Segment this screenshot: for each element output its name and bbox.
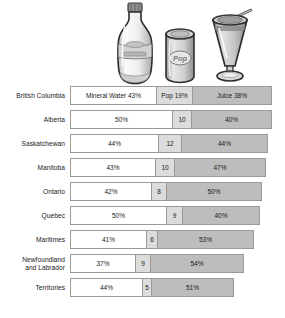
row-label-line1: Manitoba [37,164,65,171]
segment-mineral-water: 42% [71,183,151,200]
segment-mineral-water: 44% [71,135,158,152]
row-label: Quebec [0,212,70,220]
chart-row: Saskatchewan44%1244% [0,134,285,153]
row-label-line1: Maritimes [36,236,65,243]
chart-row: Alberta50%1040% [0,110,285,129]
stacked-bar: 41%653% [70,230,254,249]
segment-pop: Pop 19% [156,87,193,104]
segment-juice: 47% [175,159,265,176]
segment-mineral-water: 50% [71,111,172,128]
segment-pop: 10 [155,159,175,176]
segment-juice: Juice 38% [193,87,271,104]
segment-juice: 40% [183,207,259,224]
stacked-bar: 37%954% [70,254,244,273]
stacked-bar: Mineral Water 43%Pop 19%Juice 38% [70,86,272,105]
row-label: Newfoundlandand Labrador [0,256,70,272]
row-label: Manitoba [0,164,70,172]
beverage-consumption-stacked-bar-chart: Pop [0,0,285,318]
chart-row: Newfoundlandand Labrador37%954% [0,254,285,273]
segment-mineral-water: 44% [71,279,142,296]
chart-row: Maritimes41%653% [0,230,285,249]
segment-mineral-water: 37% [71,255,135,272]
row-label: Ontario [0,188,70,196]
segment-mineral-water: 41% [71,231,146,248]
segment-mineral-water: 43% [71,159,155,176]
segment-pop: 8 [151,183,167,200]
stacked-bar: 50%940% [70,206,260,225]
stacked-bar: 50%1040% [70,110,272,129]
stacked-bar: 42%850% [70,182,262,201]
row-label-line1: Saskatchewan [22,140,66,147]
segment-pop: 12 [158,135,182,152]
beverage-icon-legend: Pop [0,0,285,86]
row-label: Maritimes [0,236,70,244]
segment-pop: 9 [135,255,151,272]
stacked-bar: 43%1047% [70,158,266,177]
segment-juice: 44% [182,135,267,152]
chart-row: Quebec50%940% [0,206,285,225]
segment-pop: 9 [166,207,183,224]
svg-text:Pop: Pop [173,54,188,63]
row-label-line1: Alberta [44,116,65,123]
stacked-bar: 44%1244% [70,134,268,153]
segment-juice: 54% [151,255,243,272]
segment-mineral-water: Mineral Water 43% [71,87,156,104]
stacked-bar: 44%551% [70,278,234,297]
row-label-line1: Quebec [42,212,65,219]
segment-juice: 53% [158,231,253,248]
row-label-line1: Territories [36,284,66,291]
row-label-line1: British Columbia [16,92,65,99]
row-label-line1: Newfoundland [22,256,65,263]
segment-pop: 5 [142,279,152,296]
chart-row: British ColumbiaMineral Water 43%Pop 19%… [0,86,285,105]
segment-juice: 40% [192,111,271,128]
row-label: Alberta [0,116,70,124]
row-label-line1: Ontario [43,188,65,195]
row-label-line2: and Labrador [0,264,65,272]
row-label: Territories [0,284,70,292]
mineral-water-bottle-icon [104,0,166,86]
row-label: Saskatchewan [0,140,70,148]
segment-pop: 10 [172,111,192,128]
chart-row: Territories44%551% [0,278,285,297]
juice-glass-icon [202,8,258,86]
segment-juice: 50% [167,183,261,200]
chart-rows: British ColumbiaMineral Water 43%Pop 19%… [0,86,285,302]
row-label: British Columbia [0,92,70,100]
segment-juice: 51% [152,279,233,296]
segment-mineral-water: 50% [71,207,166,224]
segment-pop: 6 [146,231,158,248]
pop-can-icon: Pop [160,22,200,86]
chart-row: Ontario42%850% [0,182,285,201]
chart-row: Manitoba43%1047% [0,158,285,177]
